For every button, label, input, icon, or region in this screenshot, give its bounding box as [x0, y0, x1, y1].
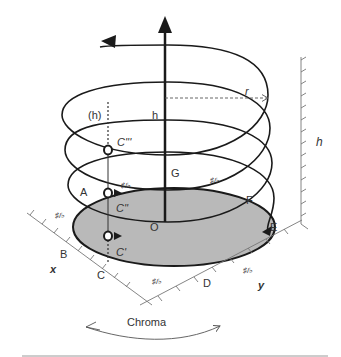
label-sharp-flat-3: ♯/♭	[55, 211, 65, 220]
h-scale-axis	[301, 57, 308, 229]
label-sharp-flat-1: ♯/♭	[121, 181, 131, 190]
point-c-prime	[104, 232, 112, 241]
label-sharp-flat-4: ♯/♭	[152, 277, 162, 286]
label-chroma: Chroma	[127, 316, 167, 328]
label-c: C	[97, 269, 105, 281]
base-disk	[73, 188, 275, 266]
label-o: O	[150, 221, 159, 233]
label-c-prime: C'	[116, 246, 127, 258]
chroma-arrow-left-head-icon	[86, 322, 100, 330]
point-c-double-prime	[104, 189, 112, 198]
label-h-paren: (h)	[88, 109, 101, 121]
label-g: G	[171, 167, 180, 179]
label-d: D	[203, 277, 211, 289]
label-h-axis: h	[152, 109, 158, 121]
label-r: r	[245, 85, 250, 97]
label-f: F	[246, 194, 253, 206]
label-h-scale: h	[316, 135, 323, 149]
value-axis-arrow-icon	[158, 16, 172, 33]
point-c-triple-prime	[104, 146, 112, 155]
label-sharp-flat-5: ♯/♭	[243, 266, 253, 275]
helix-diagram: (h) h r h C''' C'' C' A B C D E F G O x …	[0, 0, 341, 357]
label-c-double-prime: C''	[116, 202, 129, 214]
label-x: x	[49, 263, 57, 275]
label-b: B	[60, 248, 67, 260]
label-y: y	[257, 279, 265, 291]
label-sharp-flat-2: ♯/♭	[210, 176, 220, 185]
label-e: E	[270, 221, 277, 233]
label-a: A	[80, 186, 88, 198]
label-c-triple-prime: C'''	[117, 136, 132, 148]
